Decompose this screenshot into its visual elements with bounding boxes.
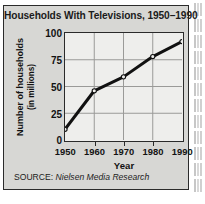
y-tick-label: 0 bbox=[16, 135, 62, 146]
adjacent-text-line bbox=[194, 35, 203, 48]
adjacent-text-line bbox=[194, 163, 203, 176]
y-axis-tick-labels: 0255075100 bbox=[12, 32, 62, 142]
y-tick-label: 25 bbox=[16, 108, 62, 119]
page-edge-column bbox=[193, 0, 205, 204]
y-tick-label: 75 bbox=[16, 55, 62, 66]
line-series bbox=[65, 33, 182, 140]
y-tick-label: 50 bbox=[16, 81, 62, 92]
plot-area bbox=[64, 32, 184, 142]
source-prefix: SOURCE: bbox=[14, 172, 53, 182]
adjacent-text-line bbox=[194, 131, 203, 144]
x-axis-tick-labels: 19501960197019801990 bbox=[64, 146, 184, 160]
adjacent-text-line bbox=[194, 51, 203, 64]
source-note: SOURCE: Nielsen Media Research bbox=[14, 172, 149, 182]
chart-card: Households With Televisions, 1950–1990 N… bbox=[3, 5, 189, 190]
adjacent-text-line bbox=[194, 83, 203, 96]
x-axis-label: Year bbox=[64, 160, 184, 171]
adjacent-text-line bbox=[194, 67, 203, 80]
adjacent-text-line bbox=[194, 115, 203, 128]
x-tick-label: 1990 bbox=[165, 146, 199, 157]
source-name: Nielsen Media Research bbox=[56, 172, 150, 182]
y-tick-label: 100 bbox=[16, 28, 62, 39]
adjacent-text-line bbox=[194, 179, 203, 192]
x-tick-mark bbox=[95, 141, 96, 146]
adjacent-text-line bbox=[194, 99, 203, 112]
chart-title: Households With Televisions, 1950–1990 bbox=[4, 10, 188, 21]
x-tick-mark bbox=[124, 141, 125, 146]
x-tick-mark bbox=[153, 141, 154, 146]
